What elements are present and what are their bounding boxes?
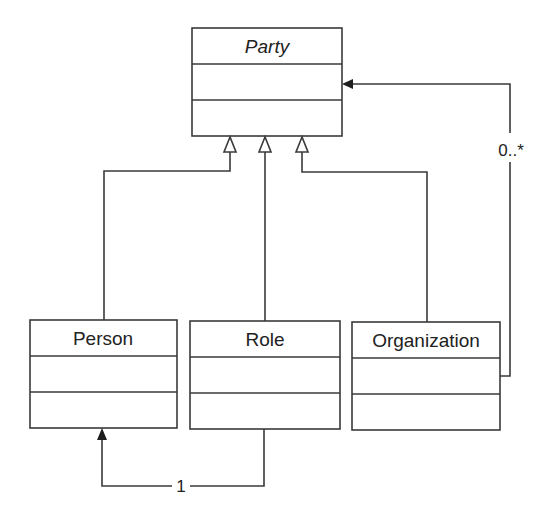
multiplicity-role-person: 1 bbox=[176, 477, 185, 496]
arrowhead-icon bbox=[97, 428, 107, 440]
generalization-role-party bbox=[259, 137, 271, 321]
class-organization: Organization bbox=[352, 322, 500, 430]
class-organization-name: Organization bbox=[372, 330, 480, 351]
generalization-person-line bbox=[104, 152, 230, 320]
inheritance-triangle-icon bbox=[224, 137, 236, 152]
multiplicity-org-party: 0..* bbox=[498, 141, 524, 160]
generalization-person-party bbox=[104, 137, 236, 320]
class-person: Person bbox=[30, 320, 177, 428]
association-org-line-upper bbox=[352, 84, 510, 133]
arrowhead-icon bbox=[342, 79, 353, 89]
diagram-svg: Party Person Role Organization bbox=[0, 0, 547, 517]
class-party-name: Party bbox=[245, 36, 291, 57]
inheritance-triangle-icon bbox=[296, 137, 308, 152]
inheritance-triangle-icon bbox=[259, 137, 271, 152]
generalization-organization-line bbox=[302, 152, 427, 322]
uml-diagram: Party Person Role Organization bbox=[0, 0, 547, 517]
class-person-name: Person bbox=[73, 328, 133, 349]
generalization-organization-party bbox=[296, 137, 427, 322]
class-role-name: Role bbox=[245, 329, 284, 350]
association-role-line-left bbox=[102, 439, 172, 486]
association-role-person: 1 bbox=[97, 428, 264, 496]
association-role-line-right bbox=[190, 429, 264, 486]
class-role: Role bbox=[190, 321, 340, 429]
association-org-line-lower bbox=[500, 162, 510, 376]
class-party: Party bbox=[192, 28, 342, 136]
